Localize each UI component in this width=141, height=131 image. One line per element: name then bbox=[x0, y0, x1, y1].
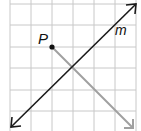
point-p bbox=[49, 44, 54, 49]
line-label: m bbox=[115, 22, 127, 38]
perpendicular-ray bbox=[52, 47, 133, 128]
point-label: P bbox=[38, 30, 48, 47]
diagram-canvas bbox=[0, 0, 141, 131]
